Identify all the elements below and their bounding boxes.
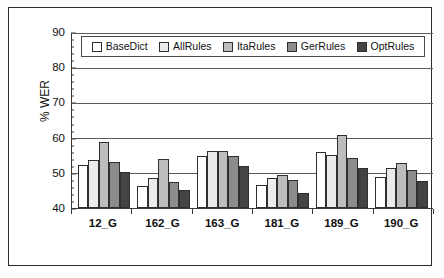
legend-item[interactable]: GerRules [287, 41, 345, 52]
bar[interactable] [326, 155, 337, 208]
bar[interactable] [375, 177, 386, 208]
bar[interactable] [197, 156, 208, 208]
bar[interactable] [78, 165, 89, 208]
bar[interactable] [256, 185, 267, 208]
x-axis-tick-mark [433, 209, 434, 214]
figure-root: % WER 405060708090 12_G162_G163_G181_G18… [0, 0, 444, 278]
y-axis-tick-labels: 405060708090 [31, 33, 65, 209]
x-axis-tick-label: 12_G [73, 215, 133, 235]
y-axis-tick-label: 80 [35, 62, 65, 74]
bar[interactable] [417, 181, 428, 208]
bar[interactable] [207, 151, 218, 208]
bar-groups [72, 33, 433, 208]
bar[interactable] [396, 163, 407, 208]
y-axis-tick-label: 40 [35, 203, 65, 215]
bar[interactable] [99, 142, 110, 208]
bar-group [312, 33, 372, 208]
bar[interactable] [228, 156, 239, 208]
x-axis-tick-labels: 12_G162_G163_G181_G189_G190_G [71, 215, 433, 235]
x-axis-tick-label: 190_G [371, 215, 431, 235]
bar-group [193, 33, 253, 208]
legend-swatch-icon [159, 42, 169, 52]
bar[interactable] [337, 135, 348, 208]
bar-group [253, 33, 313, 208]
bar[interactable] [358, 168, 369, 208]
bar[interactable] [239, 166, 250, 208]
legend-item[interactable]: AllRules [159, 41, 212, 52]
bar[interactable] [169, 182, 180, 208]
bar[interactable] [277, 175, 288, 208]
legend-item[interactable]: OptRules [357, 41, 415, 52]
y-axis-tick-label: 70 [35, 98, 65, 110]
bar[interactable] [298, 193, 309, 208]
legend-swatch-icon [223, 42, 233, 52]
bar-group [134, 33, 194, 208]
chart-legend: BaseDictAllRulesItaRulesGerRulesOptRules [81, 36, 425, 57]
bar[interactable] [158, 159, 169, 208]
bar-group [372, 33, 432, 208]
plot-area [71, 33, 433, 209]
bar[interactable] [120, 172, 131, 208]
legend-label: BaseDict [106, 41, 148, 52]
x-axis-tick-label: 181_G [252, 215, 312, 235]
legend-swatch-icon [287, 42, 297, 52]
legend-label: OptRules [371, 41, 415, 52]
y-axis-tick-label: 60 [35, 133, 65, 145]
bar[interactable] [137, 186, 148, 208]
legend-label: ItaRules [237, 41, 276, 52]
bar[interactable] [148, 178, 159, 208]
bar[interactable] [407, 170, 418, 208]
bar[interactable] [109, 162, 120, 208]
x-axis-tick-mark [312, 209, 313, 214]
x-axis-tick-label: 163_G [192, 215, 252, 235]
x-axis-tick-mark [131, 209, 132, 214]
legend-item[interactable]: BaseDict [92, 41, 148, 52]
x-axis-tick-mark [373, 209, 374, 214]
x-axis-tick-label: 189_G [312, 215, 372, 235]
legend-label: GerRules [301, 41, 345, 52]
figure-border-frame: % WER 405060708090 12_G162_G163_G181_G18… [8, 7, 432, 266]
bar[interactable] [316, 152, 327, 208]
bar[interactable] [218, 151, 229, 208]
legend-label: AllRules [173, 41, 212, 52]
legend-item[interactable]: ItaRules [223, 41, 276, 52]
bar-group [74, 33, 134, 208]
bar[interactable] [347, 158, 358, 208]
legend-swatch-icon [92, 42, 102, 52]
y-axis-tick-label: 50 [35, 168, 65, 180]
x-axis-tick-mark [252, 209, 253, 214]
x-axis-tick-label: 162_G [133, 215, 193, 235]
bar[interactable] [386, 168, 397, 208]
bar[interactable] [179, 190, 190, 208]
legend-swatch-icon [357, 42, 367, 52]
bar[interactable] [267, 178, 278, 208]
y-axis-tick-label: 90 [35, 27, 65, 39]
bar[interactable] [88, 160, 99, 208]
x-axis-tick-mark [71, 209, 72, 214]
x-axis-tick-mark [192, 209, 193, 214]
bar[interactable] [288, 180, 299, 208]
